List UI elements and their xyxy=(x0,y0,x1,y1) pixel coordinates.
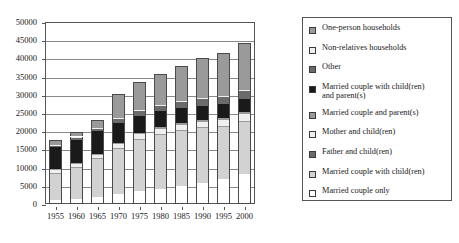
bar-segment xyxy=(196,120,209,122)
bar-segment xyxy=(217,179,230,204)
bar-segment xyxy=(175,125,188,130)
bar-segment xyxy=(91,154,104,155)
bar-segment xyxy=(49,140,62,144)
bar-segment xyxy=(238,43,251,90)
x-tick-mark xyxy=(98,207,99,210)
bar-segment xyxy=(154,134,167,135)
y-tick-label: 0 xyxy=(33,200,37,209)
bar-segment xyxy=(196,128,209,183)
bar-segment xyxy=(196,183,209,204)
legend-item[interactable]: Married couple with child(ren) xyxy=(308,167,447,187)
bar-segment xyxy=(133,134,146,138)
y-tick-label: 40000 xyxy=(16,54,37,63)
bar-stack-1995 xyxy=(217,53,230,204)
legend-item[interactable]: Non-relatives households xyxy=(308,43,447,63)
legend-item[interactable]: Mother and child(ren) xyxy=(308,127,447,147)
legend-item[interactable]: Other xyxy=(308,62,447,82)
bar-segment xyxy=(196,99,209,106)
y-tick-mark xyxy=(42,205,46,206)
bar-segment xyxy=(154,105,167,106)
legend-swatch-icon xyxy=(309,112,316,119)
bar-segment xyxy=(196,127,209,128)
bar-segment xyxy=(91,155,104,159)
x-tick-mark xyxy=(224,207,225,210)
x-tick-mark xyxy=(182,207,183,210)
legend-item-label: Father and child(ren) xyxy=(322,147,392,157)
y-tick-label: 30000 xyxy=(16,91,37,100)
legend-item-label: Mother and child(ren) xyxy=(322,127,395,137)
x-tick-mark xyxy=(245,207,246,210)
bar-segment xyxy=(217,96,230,104)
y-tick-label: 15000 xyxy=(16,145,37,154)
bar-stack-1965 xyxy=(91,120,104,204)
bar-segment xyxy=(217,118,230,120)
y-tick-label: 35000 xyxy=(16,73,37,82)
bar-segment xyxy=(154,127,167,128)
legend-swatch-icon xyxy=(309,27,316,34)
bar-stack-1990 xyxy=(196,58,209,204)
legend-swatch-icon xyxy=(309,86,316,93)
bar-segment xyxy=(70,163,83,164)
bar-segment xyxy=(238,112,251,114)
bar-stack-1975 xyxy=(133,82,146,204)
bar-segment xyxy=(70,199,83,204)
chart-legend: One-person householdsNon-relatives house… xyxy=(302,17,452,201)
bar-segment xyxy=(217,104,230,117)
y-axis: 0500010000150002000025000300003500040000… xyxy=(0,22,43,204)
bar-segment xyxy=(238,122,251,174)
bar-segment xyxy=(49,173,62,174)
bar-stack-1960 xyxy=(70,132,83,204)
bar-segment xyxy=(196,106,209,120)
bar-segment xyxy=(112,119,125,123)
bar-segment xyxy=(112,94,125,118)
bar-segment xyxy=(112,144,125,148)
y-tick-label: 45000 xyxy=(16,36,37,45)
bar-segment xyxy=(196,98,209,99)
bar-segment xyxy=(133,139,146,140)
bar-segment xyxy=(133,133,146,134)
legend-item[interactable]: Married couple with child(ren) and paren… xyxy=(308,82,447,108)
bar-segment xyxy=(154,189,167,204)
bar-segment xyxy=(238,121,251,122)
legend-item-label: Other xyxy=(322,62,341,72)
legend-item-label: Married couple only xyxy=(322,186,390,196)
bar-segment xyxy=(196,122,209,127)
bar-segment xyxy=(112,194,125,204)
bar-stack-1985 xyxy=(175,66,188,204)
bar-segment xyxy=(175,123,188,125)
y-tick-label: 20000 xyxy=(16,127,37,136)
bar-segment xyxy=(154,105,167,111)
bar-segment xyxy=(217,126,230,127)
bar-stack-1955 xyxy=(49,140,62,204)
bar-segment xyxy=(175,66,188,100)
bar-segment xyxy=(133,191,146,204)
x-tick-mark xyxy=(161,207,162,210)
legend-item-label: Married couple and parent(s) xyxy=(322,108,419,118)
legend-item[interactable]: Married couple only xyxy=(308,186,447,206)
bar-segment xyxy=(133,110,146,115)
bar-segment xyxy=(91,197,104,204)
bar-segment xyxy=(238,114,251,121)
bar-segment xyxy=(49,173,62,200)
bar-segment xyxy=(238,90,251,91)
x-axis: 1955196019651970197519801985199019952000 xyxy=(45,207,255,225)
bar-segment xyxy=(49,170,62,173)
legend-item[interactable]: One-person households xyxy=(308,23,447,43)
legend-item-label: One-person households xyxy=(322,23,400,33)
bar-segment xyxy=(49,145,62,146)
chart-figure: 0500010000150002000025000300003500040000… xyxy=(0,0,459,243)
bar-segment xyxy=(70,140,83,163)
bar-segment xyxy=(133,82,146,110)
legend-item[interactable]: Father and child(ren) xyxy=(308,147,447,167)
bar-segment xyxy=(112,143,125,144)
bar-segment xyxy=(49,147,62,169)
bar-segment xyxy=(91,128,104,129)
bar-segment xyxy=(175,131,188,186)
bar-segment xyxy=(70,163,83,166)
bar-segment xyxy=(91,128,104,131)
legend-item[interactable]: Married couple and parent(s) xyxy=(308,108,447,128)
bar-segment xyxy=(217,53,230,96)
bar-segment xyxy=(49,169,62,170)
legend-swatch-icon xyxy=(309,151,316,158)
bar-stack-1970 xyxy=(112,94,125,204)
